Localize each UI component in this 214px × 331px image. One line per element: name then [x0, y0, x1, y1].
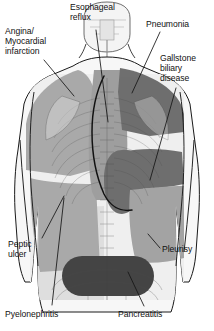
- pancreatitis-label: Pancreatitis: [118, 310, 162, 320]
- pneumonia-label: Pneumonia: [146, 20, 189, 30]
- angina-myocardial-infarction-label: Angina/ Myocardial infarction: [5, 27, 46, 57]
- pain-shading-group: [26, 68, 184, 300]
- esophageal-reflux-label: Esophageal reflux: [70, 3, 115, 23]
- peptic-ulcer-label: Peptic ulcer: [8, 240, 32, 260]
- gallstone-biliary-disease-label: Gallstone biliary disease: [160, 54, 196, 84]
- pyelonephritis-label: Pyelonephritis: [5, 310, 58, 320]
- pancreatitis-shade: [62, 256, 154, 296]
- pleurisy-label: Pleurisy: [162, 245, 192, 255]
